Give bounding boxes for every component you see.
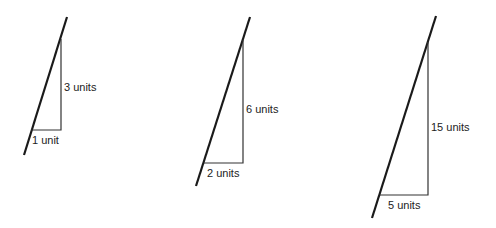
rise-label-3: 15 units <box>431 121 470 133</box>
rise-label-2: 6 units <box>246 103 278 115</box>
sloped-line-2 <box>196 17 250 186</box>
run-label-3: 5 units <box>388 199 420 211</box>
diagram-2 <box>196 17 250 186</box>
run-label-1: 1 unit <box>32 134 59 146</box>
rise-label-1: 3 units <box>64 81 96 93</box>
sloped-line-3 <box>372 16 436 218</box>
diagram-3 <box>372 16 436 218</box>
run-label-2: 2 units <box>207 167 239 179</box>
